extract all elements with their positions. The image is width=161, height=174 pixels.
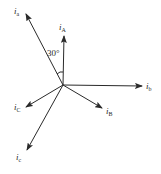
angle-arc — [57, 72, 63, 74]
label-ia-subscript: a — [17, 11, 20, 17]
vector-iA — [63, 36, 64, 85]
vector-ic — [27, 85, 63, 150]
label-iB-subscript: B — [109, 111, 113, 117]
phasor-diagram — [0, 0, 161, 174]
label-ic: ic — [16, 153, 21, 163]
label-iA: iA — [59, 23, 66, 33]
label-iA-subscript: A — [62, 27, 66, 33]
label-iC-subscript: C — [17, 107, 21, 113]
vector-iB — [63, 85, 102, 108]
label-iC: iC — [14, 103, 21, 113]
label-ib-subscript: b — [149, 86, 152, 92]
vector-ib — [63, 85, 142, 86]
label-ib: ib — [146, 82, 152, 92]
angle-label-30deg: 30° — [47, 49, 60, 58]
label-iB: iB — [106, 107, 113, 117]
label-ia: ia — [14, 7, 19, 17]
label-ic-subscript: c — [19, 157, 22, 163]
